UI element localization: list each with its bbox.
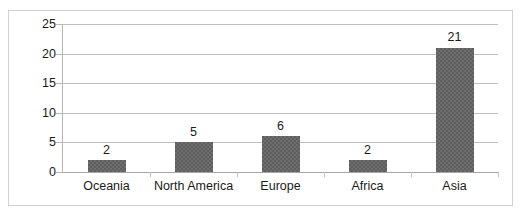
y-axis-tick — [56, 24, 62, 25]
y-axis-tick-label: 0 — [10, 166, 56, 179]
y-axis-tick — [56, 54, 62, 55]
y-axis-tick — [56, 172, 62, 173]
x-axis-tick — [411, 172, 412, 177]
bar — [88, 160, 126, 172]
bar-group: 5 — [150, 24, 237, 172]
y-axis-tick-label: 5 — [10, 136, 56, 149]
x-axis-tick — [150, 172, 151, 177]
y-axis-tick — [56, 83, 62, 84]
bar-group: 21 — [411, 24, 498, 172]
x-axis-category-label: North America — [150, 180, 237, 193]
bar-value-label: 5 — [190, 126, 197, 139]
bar — [262, 136, 300, 172]
y-axis-tick-label: 20 — [10, 48, 56, 61]
bar-group: 2 — [63, 24, 150, 172]
bar-value-label: 2 — [364, 144, 371, 157]
x-axis-category-label: Oceania — [63, 180, 150, 193]
bar-group: 6 — [237, 24, 324, 172]
y-axis-tick-label: 10 — [10, 107, 56, 120]
x-axis-category-label: Africa — [324, 180, 411, 193]
bar-value-label: 6 — [277, 120, 284, 133]
x-axis-labels: OceaniaNorth AmericaEuropeAfricaAsia — [63, 180, 498, 200]
bar-chart: 0510152025 256221 OceaniaNorth AmericaEu… — [0, 0, 526, 217]
bar-value-label: 21 — [448, 31, 462, 44]
bar — [175, 142, 213, 172]
y-axis-tick-label: 25 — [10, 18, 56, 31]
bar — [349, 160, 387, 172]
x-axis-category-label: Asia — [411, 180, 498, 193]
x-axis-tick — [498, 172, 499, 177]
x-axis-tick — [324, 172, 325, 177]
x-axis-tick — [237, 172, 238, 177]
plot-area: 256221 — [63, 24, 498, 172]
bar — [436, 48, 474, 172]
x-axis-category-label: Europe — [237, 180, 324, 193]
y-axis-tick — [56, 142, 62, 143]
y-axis-labels: 0510152025 — [6, 0, 56, 217]
y-axis-tick — [56, 113, 62, 114]
gridline — [63, 172, 498, 173]
y-axis-tick-label: 15 — [10, 77, 56, 90]
bar-group: 2 — [324, 24, 411, 172]
bar-value-label: 2 — [103, 144, 110, 157]
